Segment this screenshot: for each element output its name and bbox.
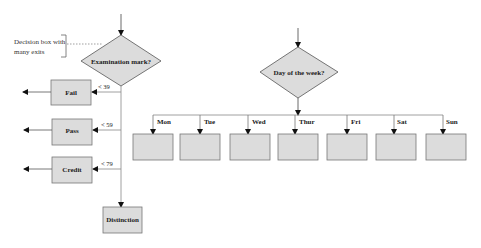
mon-box: [133, 134, 173, 160]
distinction-label: Distinction: [106, 216, 139, 224]
tue-box: [180, 134, 220, 160]
annotation-line1: Decision box with: [14, 38, 66, 46]
fri-label: Fri: [351, 118, 360, 126]
sat-box: [376, 134, 416, 160]
wed-label: Wed: [252, 118, 266, 126]
decision-label-exam: Examination mark?: [91, 58, 152, 66]
exam-flow: Examination mark? < 39 Fail < 59 Pass < …: [23, 14, 161, 233]
flowchart-canvas: Decision box with many exits Examination…: [0, 0, 481, 248]
sun-label: Sun: [446, 118, 458, 126]
pass-label: Pass: [65, 127, 79, 135]
mon-label: Mon: [157, 118, 171, 126]
fail-label: Fail: [65, 89, 77, 97]
annotation-line2: many exits: [14, 48, 45, 56]
thur-label: Thur: [299, 118, 315, 126]
thur-box: [278, 134, 318, 160]
fri-box: [327, 134, 367, 160]
credit-label: Credit: [62, 166, 82, 174]
day-flow: Day of the week? Mon Tue Wed Thur Fri Sa…: [133, 28, 466, 160]
pass-condition: < 59: [101, 121, 113, 128]
tue-label: Tue: [204, 118, 215, 126]
fail-condition: < 39: [98, 83, 110, 90]
sun-box: [426, 134, 466, 160]
annotation: Decision box with many exits: [14, 35, 102, 57]
wed-box: [230, 134, 270, 160]
credit-condition: < 79: [101, 160, 113, 167]
sat-label: Sat: [397, 118, 407, 126]
decision-label-day: Day of the week?: [273, 69, 325, 77]
